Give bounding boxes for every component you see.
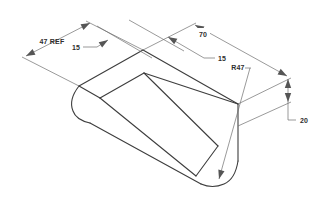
dim-47-ref-label: 47 REF — [40, 38, 65, 45]
edge-oblique-right — [196, 146, 218, 176]
dim-70-label: 70 — [199, 31, 207, 38]
drawing-canvas: 47 REF 15 15 70 R47 20 — [0, 0, 322, 220]
dim-line-15-right — [168, 37, 204, 58]
ext-line-20-bottom — [238, 102, 291, 126]
ext-line-47-right — [86, 21, 143, 50]
dim-bracket-20 — [288, 102, 296, 120]
dim-15-right-label: 15 — [218, 55, 226, 62]
leader-line-r47 — [219, 68, 250, 179]
edge-top-left — [79, 50, 143, 86]
edge-left-round — [72, 86, 90, 123]
ext-line-47-left — [22, 57, 79, 86]
ext-line-15-right — [129, 20, 184, 51]
dimension-labels: 47 REF 15 15 70 R47 20 — [40, 28, 309, 124]
edge-top-near-short — [79, 86, 100, 98]
edge-oblique-steep — [144, 73, 218, 146]
edge-bottom-silhouette — [90, 123, 201, 184]
isometric-part-drawing: 47 REF 15 15 70 R47 20 — [0, 0, 322, 220]
dim-r47-label: R47 — [231, 64, 244, 71]
dim-line-15-left — [97, 40, 108, 47]
edge-cut-up — [100, 73, 144, 98]
edge-right-round — [201, 161, 238, 186]
ext-line-70-left — [143, 23, 196, 50]
dim-20-label: 20 — [300, 117, 308, 124]
part-outline — [72, 50, 238, 186]
dim-15-left-label: 15 — [72, 44, 80, 51]
